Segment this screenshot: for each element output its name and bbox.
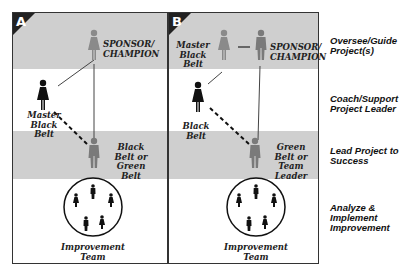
role-coach: Coach/Support Project Leader: [330, 94, 402, 114]
sponsor-figure-a: [88, 30, 100, 60]
master-black-belt-label-b: Master Black Belt: [173, 41, 213, 70]
black-belt-label-b: Black Belt: [174, 122, 218, 141]
team-label-a: Improvement Team: [60, 243, 126, 262]
project-leader-figure-a: [89, 138, 100, 168]
sponsor-label-a: SPONSOR/ CHAMPION: [103, 40, 153, 59]
black-belt-figure-b: [192, 82, 204, 112]
sponsor-figure-b: [256, 30, 267, 60]
role-oversee: Oversee/Guide Project(s): [330, 36, 402, 56]
master-black-belt-figure-a: [37, 80, 49, 110]
role-lead: Lead Project to Success: [330, 146, 402, 166]
master-black-belt-label-a: Master Black Belt: [22, 111, 66, 140]
master-black-belt-figure-b: [218, 30, 230, 60]
project-leader-label-a: Black Belt or Green Belt: [108, 143, 154, 181]
sponsor-label-b: SPONSOR/ CHAMPION: [270, 43, 320, 62]
role-analyze: Analyze & Implement Improvement: [330, 203, 402, 233]
project-leader-figure-b: [250, 138, 261, 168]
project-leader-label-b: Green Belt or Team Leader: [266, 143, 316, 181]
team-label-b: Improvement Team: [223, 243, 289, 262]
